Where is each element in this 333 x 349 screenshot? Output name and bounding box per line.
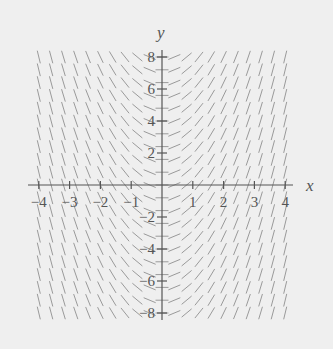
slope-segment bbox=[168, 144, 180, 149]
x-tick-label: 4 bbox=[281, 194, 289, 210]
slope-segment bbox=[195, 116, 203, 126]
slope-segment bbox=[37, 255, 40, 268]
slope-segment bbox=[62, 217, 66, 229]
slope-segment bbox=[62, 89, 66, 101]
slope-segment bbox=[168, 311, 180, 316]
slope-segment bbox=[49, 166, 52, 179]
slope-segment bbox=[259, 243, 263, 255]
slope-segment bbox=[62, 128, 66, 140]
slope-segment bbox=[109, 256, 116, 267]
slope-segment bbox=[74, 230, 78, 242]
slope-segment bbox=[221, 51, 227, 63]
slope-segment bbox=[195, 218, 203, 228]
slope-segment bbox=[271, 51, 274, 64]
slope-segment bbox=[246, 166, 250, 178]
slope-segment bbox=[74, 76, 78, 88]
slope-segment bbox=[144, 234, 156, 239]
slope-segment bbox=[234, 243, 239, 255]
slope-segment bbox=[271, 166, 274, 179]
slope-segment bbox=[86, 166, 91, 178]
slope-segment bbox=[284, 63, 287, 76]
slope-segment bbox=[168, 195, 180, 200]
slope-segment bbox=[246, 140, 250, 152]
slope-segment bbox=[109, 218, 116, 229]
slope-segment bbox=[195, 78, 203, 88]
slope-segment bbox=[208, 256, 215, 267]
slope-segment bbox=[144, 259, 156, 264]
y-tick-label: 8 bbox=[148, 49, 156, 65]
slope-segment bbox=[49, 51, 52, 64]
slope-segment bbox=[271, 76, 274, 89]
slope-segment bbox=[234, 217, 239, 229]
slope-segment bbox=[246, 230, 250, 242]
slope-segment bbox=[271, 281, 274, 294]
slope-segment bbox=[259, 64, 263, 76]
slope-segment bbox=[234, 51, 239, 63]
slope-segment bbox=[182, 219, 192, 227]
slope-segment bbox=[271, 217, 274, 230]
slope-segment bbox=[284, 102, 287, 115]
slope-segment bbox=[208, 269, 215, 280]
slope-segment bbox=[74, 51, 78, 63]
slope-segment bbox=[37, 63, 40, 76]
slope-segment bbox=[195, 295, 203, 305]
slope-segment bbox=[221, 307, 227, 319]
slope-segment bbox=[221, 77, 227, 89]
slope-segment bbox=[109, 167, 116, 178]
slope-segment bbox=[271, 256, 274, 269]
slope-segment bbox=[284, 230, 287, 243]
slope-segment bbox=[74, 281, 78, 293]
slope-segment bbox=[246, 51, 250, 63]
slope-segment bbox=[208, 128, 215, 139]
slope-segment bbox=[195, 142, 203, 152]
slope-segment bbox=[62, 294, 66, 306]
slope-segment bbox=[121, 167, 129, 177]
slope-segment bbox=[168, 298, 180, 303]
slope-segment bbox=[168, 131, 180, 136]
slope-segment bbox=[86, 89, 91, 101]
slope-segment bbox=[246, 243, 250, 255]
slope-segment bbox=[74, 153, 78, 165]
x-tick-label: 1 bbox=[189, 194, 197, 210]
slope-segment bbox=[284, 140, 287, 153]
slope-segment bbox=[109, 231, 116, 242]
slope-segment bbox=[121, 142, 129, 152]
x-axis-label: x bbox=[305, 176, 314, 195]
slope-segment bbox=[259, 166, 263, 178]
slope-segment bbox=[271, 192, 274, 205]
slope-segment bbox=[195, 154, 203, 164]
slope-segment bbox=[98, 243, 104, 255]
slope-segment bbox=[121, 65, 129, 75]
slope-segment bbox=[121, 154, 129, 164]
slope-segment bbox=[195, 282, 203, 292]
slope-segment bbox=[284, 281, 287, 294]
slope-segment bbox=[74, 115, 78, 127]
slope-segment bbox=[259, 89, 263, 101]
slope-segment bbox=[109, 295, 116, 306]
slope-segment bbox=[284, 255, 287, 268]
slope-segment bbox=[62, 243, 66, 255]
y-tick-label: 2 bbox=[148, 145, 156, 161]
slope-segment bbox=[182, 283, 192, 291]
x-tick-label: 3 bbox=[251, 194, 259, 210]
slope-segment bbox=[221, 218, 227, 230]
slope-segment bbox=[86, 294, 91, 306]
slope-segment bbox=[208, 243, 215, 254]
slope-segment bbox=[208, 115, 215, 126]
slope-segment bbox=[86, 269, 91, 281]
slope-segment bbox=[284, 51, 287, 64]
slope-segment bbox=[234, 102, 239, 114]
slope-segment bbox=[246, 115, 250, 127]
slope-segment bbox=[284, 89, 287, 102]
slope-segment bbox=[182, 142, 192, 150]
slope-segment bbox=[284, 217, 287, 230]
slope-segment bbox=[98, 154, 104, 166]
slope-segment bbox=[49, 192, 52, 205]
slope-segment bbox=[271, 307, 274, 320]
slope-segment bbox=[208, 103, 215, 114]
slope-segment bbox=[208, 64, 215, 75]
slope-segment bbox=[49, 230, 52, 243]
slope-segment bbox=[259, 128, 263, 140]
slope-segment bbox=[98, 256, 104, 268]
slope-segment bbox=[86, 217, 91, 229]
